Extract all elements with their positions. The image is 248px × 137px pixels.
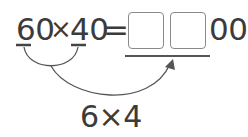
multiplication-diagram: 60 × 40 = 00 6×4: [0, 0, 248, 137]
arrowhead-icon: [165, 59, 175, 70]
connector-arc: [24, 47, 78, 66]
arrow-arc: [51, 64, 170, 95]
hint-text: 6×4: [80, 101, 142, 132]
